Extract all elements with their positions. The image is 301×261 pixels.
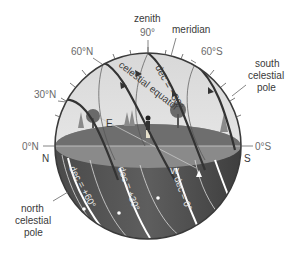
lat-30n-label: 30°N (34, 89, 56, 100)
zenith-angle-label: 90° (140, 27, 155, 38)
lat-60n-label: 60°N (71, 46, 93, 57)
direction-s: S (244, 153, 251, 164)
lat-0n-label: 0°N (22, 141, 39, 152)
direction-w: W (170, 165, 179, 176)
north-pole-label-1: north (21, 203, 44, 214)
south-pole-label-3: pole (257, 82, 276, 93)
zenith-label: zenith (134, 13, 161, 24)
lat-0s-label: 0°S (255, 141, 272, 152)
south-pole-label-2: celestial (248, 70, 284, 81)
north-pole-label-3: pole (24, 227, 43, 238)
south-pole-label-1: south (255, 58, 279, 69)
direction-e: E (106, 118, 113, 129)
lat-60s-label: 60°S (201, 46, 223, 57)
meridian-label: meridian (172, 24, 210, 35)
celestial-sphere-diagram: zenith 90° meridian 60°N 30°N 0°N 60°S 0… (0, 0, 301, 261)
direction-n: N (42, 153, 49, 164)
north-pole-label-2: celestial (15, 215, 51, 226)
